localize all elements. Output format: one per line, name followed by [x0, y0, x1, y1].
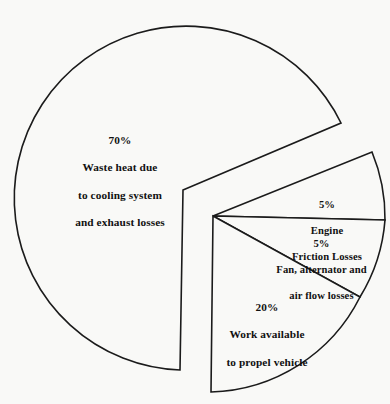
pie-label-fan-alternator-line1: Fan, alternator and — [253, 264, 390, 277]
pie-label-waste-heat-line3: and exhaust losses — [36, 216, 204, 230]
pie-label-waste-heat-line2: to cooling system — [36, 189, 204, 203]
pie-label-waste-heat-line1: Waste heat due — [36, 161, 204, 175]
pie-label-work-available: 20% Work available to propel vehicle — [196, 287, 338, 383]
pie-label-waste-heat-percent: 70% — [36, 134, 204, 148]
pie-label-waste-heat: 70% Waste heat due to cooling system and… — [36, 120, 204, 244]
pie-label-engine-friction-percent: 5% — [265, 199, 389, 212]
pie-label-work-available-percent: 20% — [196, 301, 338, 315]
pie-chart-figure: 70% Waste heat due to cooling system and… — [0, 0, 390, 404]
pie-label-fan-alternator-percent: 5% — [253, 238, 390, 251]
pie-label-work-available-line2: to propel vehicle — [196, 356, 338, 370]
pie-label-work-available-line1: Work available — [196, 328, 338, 342]
